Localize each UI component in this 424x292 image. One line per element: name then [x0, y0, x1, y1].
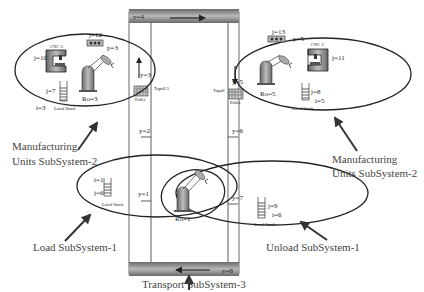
buffer-icon [87, 40, 103, 46]
buffer-p: p=5 [293, 35, 304, 43]
robot-label: Ro=3 [82, 95, 98, 103]
callout-arrow-unload [301, 222, 327, 240]
bottom-belt-position: y=8 [222, 267, 233, 275]
local-stock-icon [302, 83, 309, 100]
top-belt [129, 9, 239, 23]
station-left-label: Topall 3 [154, 86, 170, 91]
stock-id: j=6 [93, 189, 104, 197]
stock-i: i=6 [272, 211, 282, 219]
cnc-id: j=10 [33, 54, 47, 62]
stock-label: Local Stock [254, 222, 276, 227]
system-diagram: y=4 y=8 y=3 y=2 y=1 Pallet Topall 3 y=5 … [0, 0, 424, 292]
station-right-label: Topall [213, 88, 225, 93]
stock-id: j=9 [267, 202, 278, 210]
shared-robot-label: Ro=1 [175, 215, 191, 223]
stock-label: Local Stock [54, 106, 76, 111]
local-stock-icon [60, 81, 67, 101]
callout-arrow-mfg-right [335, 118, 357, 151]
cnc-id: j=11 [331, 54, 345, 62]
robot-label: Ro=5 [260, 90, 276, 98]
top-belt-position: y=4 [133, 13, 144, 21]
cnc-label: CNC 2 [311, 42, 324, 47]
position-y1: y=1 [138, 190, 149, 198]
position-y3: y=3 [140, 71, 151, 79]
stock-i: i=5 [315, 97, 325, 105]
callout-mfg-right-line2: Units SubSystem-2 [332, 167, 417, 179]
pallet-right-label: Pallet [230, 100, 241, 105]
pallet-left-label: Pallet [135, 97, 146, 102]
stock-label: Local Stock [102, 202, 124, 207]
callout-mfg-left-line2: Units SubSystem-2 [12, 155, 97, 167]
callout-mfg-right-line1: Manufacturing [332, 153, 398, 165]
callout-arrow-load [65, 215, 90, 241]
manufacturing-unit-right: j=13 p=5 Ro=5 CNC 2 j=11 j=8 i=5 Local S… [235, 28, 411, 111]
cnc-machine-icon [46, 50, 66, 72]
stock-i: i=1 [94, 176, 104, 184]
robot-arm-icon [79, 54, 114, 92]
buffer-p: p=3 [107, 44, 118, 52]
callout-unload: Unload SubSystem-1 [266, 241, 360, 253]
cnc-machine-icon [308, 49, 328, 71]
buffer-id: j=13 [271, 28, 285, 36]
stock-label: Local Stock [292, 106, 314, 111]
cnc-label: CNC 3 [50, 44, 63, 49]
position-y6: y=6 [232, 127, 243, 135]
callout-mfg-left-line1: Manufacturing [12, 140, 78, 152]
robot-arm-icon [257, 54, 292, 85]
stock-i: i=3 [36, 104, 46, 112]
buffer-icon [268, 36, 285, 42]
stock-id: j=7 [45, 87, 56, 95]
callout-arrow-mfg-left [78, 123, 97, 150]
position-y2: y=2 [139, 127, 150, 135]
pallet-right [229, 89, 243, 99]
callout-load: Load SubSystem-1 [33, 241, 117, 253]
local-stock-icon [258, 197, 265, 218]
buffer-id: j=12 [88, 31, 102, 39]
transport-conveyor: y=4 y=8 y=3 y=2 y=1 Pallet Topall 3 y=5 … [129, 9, 243, 276]
stock-id: j=8 [310, 88, 321, 96]
callout-transport: Transport SubSystem-3 [142, 278, 246, 290]
local-stock-icon [104, 178, 111, 196]
